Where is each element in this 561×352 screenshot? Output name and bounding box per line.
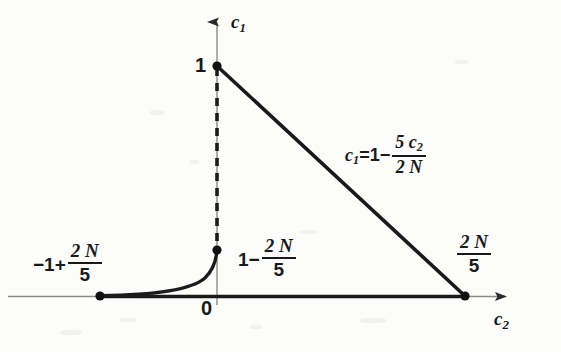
paper-speckle bbox=[360, 318, 386, 323]
paper-speckle bbox=[190, 160, 199, 164]
left-endpoint-fraction: 2 N5 bbox=[68, 241, 102, 285]
kink-point-lead: 1− bbox=[238, 250, 260, 270]
figure-root: c1 c2 1 0 −1+2 N5 1−2 N5 2 N5 c1=1−5 c22… bbox=[0, 0, 561, 352]
origin-label: 0 bbox=[201, 298, 212, 319]
kink-point-fraction: 2 N5 bbox=[262, 236, 296, 280]
right-endpoint-fraction: 2 N5 bbox=[457, 232, 491, 276]
equation-fraction: 5 c22 N bbox=[392, 133, 426, 177]
paper-speckle bbox=[60, 330, 82, 335]
point-kink bbox=[212, 245, 221, 254]
paper-speckle bbox=[455, 60, 468, 64]
equation-numerator-sub: 2 bbox=[417, 140, 423, 154]
kink-point-numerator: 2 N bbox=[262, 236, 296, 259]
line-equation-label: c1=1−5 c22 N bbox=[345, 134, 428, 178]
equation-denominator: 2 N bbox=[392, 157, 426, 177]
diagram-canvas bbox=[0, 0, 561, 352]
right-endpoint-label: 2 N5 bbox=[455, 234, 493, 278]
point-left-endpoint bbox=[95, 291, 104, 300]
equation-relation: =1− bbox=[359, 145, 390, 165]
left-endpoint-label: −1+2 N5 bbox=[33, 243, 104, 287]
left-endpoint-numerator: 2 N bbox=[68, 241, 102, 264]
point-y-intercept bbox=[212, 61, 221, 70]
concave-curve bbox=[100, 250, 217, 296]
kink-point-label: 1−2 N5 bbox=[238, 238, 298, 282]
paper-speckle bbox=[250, 325, 262, 329]
paper-speckle bbox=[120, 318, 136, 322]
y-axis-label: c1 bbox=[231, 12, 246, 34]
equation-lhs-base: c bbox=[345, 145, 353, 165]
point-right-endpoint bbox=[460, 291, 469, 300]
left-endpoint-denominator: 5 bbox=[68, 264, 102, 285]
x-axis-label: c2 bbox=[494, 309, 509, 331]
y-intercept-label: 1 bbox=[195, 55, 206, 76]
paper-speckle bbox=[300, 230, 318, 234]
paper-speckle bbox=[150, 110, 164, 115]
right-endpoint-denominator: 5 bbox=[457, 255, 491, 276]
equation-numerator: 5 c2 bbox=[392, 133, 426, 157]
kink-point-denominator: 5 bbox=[262, 259, 296, 280]
equation-numerator-base: 5 c bbox=[395, 132, 417, 152]
left-endpoint-lead: −1+ bbox=[33, 255, 66, 275]
right-endpoint-numerator: 2 N bbox=[457, 232, 491, 255]
